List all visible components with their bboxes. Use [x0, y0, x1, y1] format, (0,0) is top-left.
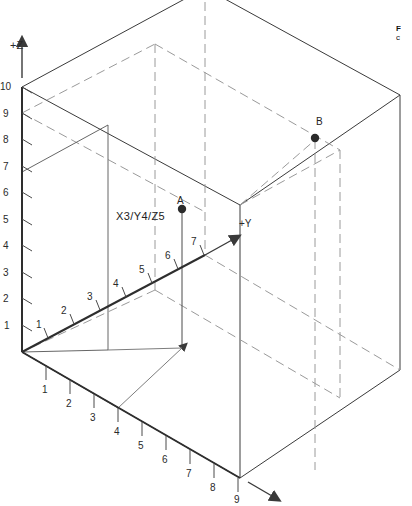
hidden-inner-a	[22, 44, 155, 113]
z-tick-label-3: 3	[3, 268, 9, 278]
figure-caption-line2: c	[396, 33, 401, 42]
point-a-label: A	[177, 196, 184, 206]
y-tick-label-7: 7	[191, 237, 197, 247]
z-tick-label-9: 9	[3, 109, 9, 119]
point-b-leader	[240, 140, 315, 205]
box-top-edge-d	[240, 95, 400, 205]
y-tick-label-6: 6	[165, 251, 171, 261]
y-tick-label-4: 4	[113, 279, 119, 289]
z-axis-label: +Z	[10, 40, 23, 51]
point-b-label: B	[316, 117, 323, 127]
x-tick-label-3: 3	[90, 413, 96, 423]
box-top-edge-b	[22, 87, 240, 205]
x3-plane-bottom	[22, 350, 108, 352]
z-tick-label-5: 5	[3, 215, 9, 225]
x-tick-label-5: 5	[138, 441, 144, 451]
figure-caption-line1: F	[396, 24, 401, 33]
x-tick-label-7: 7	[186, 469, 192, 479]
box-top-edge-a	[22, 0, 205, 87]
point-a-base-connector	[108, 348, 182, 350]
x3-plane-outline	[22, 125, 108, 352]
point-a-base-y-leg	[118, 348, 182, 408]
y-tick-label-3: 3	[87, 292, 93, 302]
x-axis-line	[22, 352, 240, 478]
y-tick-label-5: 5	[139, 265, 145, 275]
z-tick-label-1: 1	[4, 321, 10, 331]
point-b-construction	[240, 140, 315, 470]
y-axis-label: +Y	[239, 219, 252, 229]
hidden-inner-h	[240, 150, 340, 205]
figure-caption: F c	[396, 24, 401, 42]
z-tick-label-6: 6	[3, 188, 9, 198]
isometric-axes-drawing	[0, 0, 412, 506]
x-tick-label-1: 1	[42, 385, 48, 395]
plotted-points	[178, 134, 319, 213]
box-hidden-edges	[22, 0, 400, 398]
x-tick-label-2: 2	[66, 399, 72, 409]
x-tick-label-8: 8	[210, 483, 216, 493]
figure-canvas: 1 2 3 4 5 6 7 8 9 10 1 2 3 4 5 6 7 1 2 3…	[0, 0, 412, 506]
z-axis-ticks	[22, 87, 32, 331]
hidden-inner-c	[155, 290, 340, 398]
x-tick-label-4: 4	[114, 427, 120, 437]
z-tick-label-4: 4	[3, 241, 9, 251]
x3-plane-top-left	[22, 125, 108, 172]
box-wireframe	[22, 0, 400, 478]
hidden-base-right	[205, 255, 400, 370]
box-top-edge-c	[205, 0, 400, 95]
x-tick-label-9: 9	[234, 495, 240, 505]
x-axis	[22, 352, 272, 496]
y-axis-arrow	[205, 240, 232, 255]
y-axis-line	[22, 255, 205, 352]
y-tick-label-2: 2	[61, 306, 67, 316]
z-tick-label-2: 2	[3, 294, 9, 304]
y-tick-label-1: 1	[36, 320, 42, 330]
z-axis	[22, 46, 32, 352]
point-b-marker	[311, 134, 319, 142]
x-axis-arrow	[248, 482, 272, 496]
x-tick-label-6: 6	[162, 455, 168, 465]
point-a-coords-label: X3/Y4/Z5	[116, 211, 165, 222]
y-axis-ticks	[44, 245, 204, 338]
z-tick-label-10: 10	[0, 82, 11, 92]
y-axis	[22, 240, 232, 352]
point-a-marker	[178, 205, 186, 213]
z-tick-label-8: 8	[3, 135, 9, 145]
z-tick-label-7: 7	[3, 162, 9, 172]
hidden-inner-e	[155, 44, 340, 150]
